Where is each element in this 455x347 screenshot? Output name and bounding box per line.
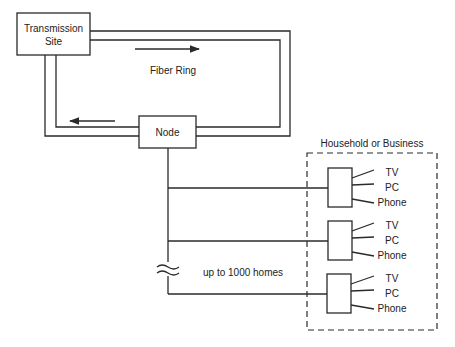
household-unit-3: TV PC Phone	[327, 273, 407, 314]
device-tv: TV	[386, 273, 399, 284]
fiber-ring-label: Fiber Ring	[150, 65, 196, 76]
set-top-box	[328, 221, 352, 260]
household-unit-1: TV PC Phone	[328, 167, 407, 208]
transmission-site-box	[17, 13, 90, 55]
fiber-network-diagram: Transmission Site Fiber Ring Node up to …	[0, 0, 455, 347]
homes-count-label: up to 1000 homes	[203, 267, 283, 278]
set-top-box	[328, 168, 352, 207]
device-tv: TV	[386, 167, 399, 178]
transmission-site-label-2: Site	[45, 36, 63, 47]
set-top-box	[327, 274, 351, 313]
device-phone: Phone	[378, 250, 407, 261]
device-phone: Phone	[378, 197, 407, 208]
node-label: Node	[156, 127, 180, 138]
break-symbol-icon	[157, 262, 179, 276]
device-phone: Phone	[378, 303, 407, 314]
device-pc: PC	[385, 288, 399, 299]
device-tv: TV	[386, 220, 399, 231]
household-title: Household or Business	[321, 138, 424, 149]
transmission-site: Transmission Site	[17, 13, 90, 55]
transmission-site-label-1: Transmission	[24, 23, 83, 34]
household-unit-2: TV PC Phone	[328, 220, 407, 261]
device-pc: PC	[385, 182, 399, 193]
node: Node	[139, 116, 196, 148]
device-pc: PC	[385, 235, 399, 246]
